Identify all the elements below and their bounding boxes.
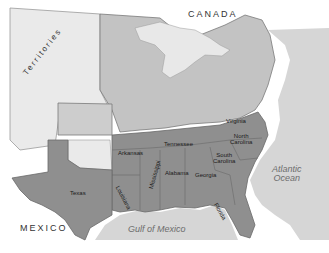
label-gulf-of-mexico: Gulf of Mexico (128, 225, 186, 234)
civil-war-map: CANADA MEXICO Atlantic Ocean Gulf of Mex… (0, 0, 329, 253)
atlantic-line2: Ocean (272, 174, 302, 183)
label-virginia: Virginia (226, 118, 246, 124)
label-tennessee: Tennessee (164, 141, 193, 147)
label-canada: CANADA (188, 10, 238, 19)
kansas (58, 103, 112, 135)
nc-line2: Carolina (230, 139, 252, 145)
label-mexico: MEXICO (20, 224, 68, 233)
label-arkansas: Arkansas (118, 150, 143, 156)
label-texas: Texas (70, 190, 86, 196)
label-atlantic-ocean: Atlantic Ocean (272, 165, 302, 183)
label-north-carolina: North Carolina (230, 133, 252, 145)
label-georgia: Georgia (195, 172, 216, 178)
label-alabama: Alabama (165, 170, 189, 176)
sc-line2: Carolina (213, 158, 235, 164)
label-south-carolina: South Carolina (213, 152, 235, 164)
